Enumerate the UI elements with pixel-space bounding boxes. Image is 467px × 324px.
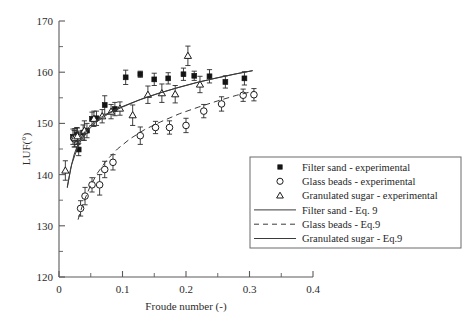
- legend-label: Granulated sugar - experimental: [302, 190, 438, 201]
- x-tick-label: 0.1: [116, 283, 130, 295]
- legend-marker-filled-square: [278, 165, 282, 169]
- marker-open-circle: [77, 205, 84, 212]
- y-tick-label: 170: [37, 15, 54, 27]
- legend-label: Filter sand - Eq. 9: [302, 205, 378, 216]
- marker-filled-square: [192, 73, 197, 78]
- y-tick-label: 160: [37, 66, 54, 78]
- marker-filled-square: [138, 72, 143, 77]
- y-axis-label: LUF(°): [20, 132, 33, 165]
- x-tick-label: 0.2: [179, 283, 193, 295]
- marker-open-triangle: [172, 91, 179, 97]
- marker-filled-square: [223, 80, 228, 85]
- marker-filled-square: [181, 72, 186, 77]
- marker-filled-square: [123, 75, 128, 80]
- legend-label: Granulated sugar - Eq.9: [302, 233, 402, 244]
- legend-label: Glass beads - experimental: [302, 176, 416, 187]
- x-tick-label: 0.4: [306, 283, 320, 295]
- y-tick-label: 130: [37, 220, 54, 232]
- series-filter-sand-experimental: [70, 68, 247, 156]
- marker-filled-square: [102, 103, 107, 108]
- marker-open-circle: [166, 124, 173, 131]
- marker-filled-square: [152, 77, 157, 82]
- scatter-plot-svg: 00.10.20.30.4120130140150160170Froude nu…: [0, 0, 467, 324]
- x-tick-label: 0: [56, 283, 62, 295]
- marker-open-triangle: [62, 167, 69, 173]
- marker-filled-square: [207, 74, 212, 79]
- y-tick-label: 140: [37, 169, 54, 181]
- marker-filled-square: [166, 76, 171, 81]
- marker-open-circle: [110, 159, 117, 166]
- marker-open-circle: [218, 101, 225, 108]
- marker-open-circle: [101, 166, 108, 173]
- chart-figure: 00.10.20.30.4120130140150160170Froude nu…: [0, 0, 467, 324]
- y-tick-label: 150: [37, 117, 54, 129]
- x-axis-label: Froude number (-): [145, 300, 227, 313]
- series-granulated-sugar-experimental: [62, 46, 204, 180]
- x-tick-label: 0.3: [243, 283, 257, 295]
- legend-marker-open-circle: [277, 178, 283, 184]
- y-tick-label: 120: [37, 271, 54, 283]
- marker-open-circle: [183, 122, 190, 129]
- marker-filled-square: [242, 76, 247, 81]
- marker-open-circle: [200, 108, 207, 115]
- marker-open-circle: [96, 182, 103, 189]
- marker-open-triangle: [184, 52, 191, 58]
- marker-open-circle: [251, 91, 258, 98]
- legend-group: Filter sand - experimentalGlass beads - …: [250, 157, 461, 248]
- marker-open-circle: [137, 132, 144, 139]
- legend-label: Glass beads - Eq.9: [302, 219, 380, 230]
- series-glass-beads-experimental: [71, 89, 257, 216]
- series-group: [62, 46, 257, 220]
- marker-open-triangle: [129, 112, 136, 118]
- legend-label: Filter sand - experimental: [302, 162, 410, 173]
